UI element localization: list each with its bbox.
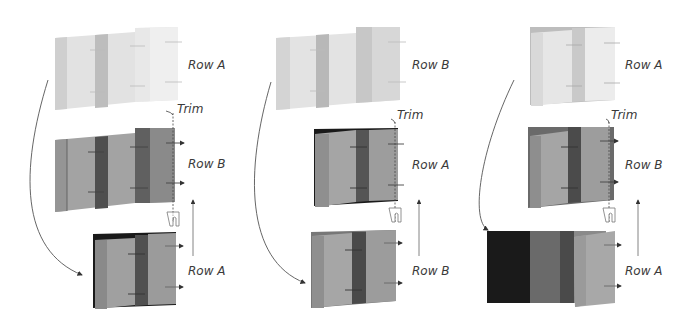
bottom-fabric-panel — [487, 231, 621, 307]
row-label-top: Row A — [625, 58, 663, 72]
trim-label: Trim — [397, 108, 423, 122]
row-label-top: Row A — [188, 58, 226, 72]
middle-fabric-panel — [528, 119, 618, 222]
row-label-middle: Row B — [625, 158, 663, 172]
top-fabric-panel — [530, 27, 620, 106]
row-label-bottom: Row A — [625, 264, 663, 278]
move-row-arrow — [479, 80, 514, 230]
move-row-arrow — [254, 82, 305, 283]
row-label-bottom: Row B — [412, 264, 450, 278]
row-label-middle: Row A — [412, 158, 450, 172]
presser-foot-icon — [389, 208, 401, 222]
top-fabric-panel — [55, 27, 182, 110]
trim-label: Trim — [611, 108, 637, 122]
column-1 — [30, 27, 193, 309]
column-2 — [254, 27, 419, 308]
seam-diagram — [0, 0, 680, 328]
middle-fabric-panel — [55, 111, 184, 222]
presser-foot-icon — [167, 212, 179, 226]
bottom-fabric-panel — [311, 230, 402, 308]
presser-foot-icon — [603, 208, 615, 222]
row-label-top: Row B — [412, 58, 450, 72]
column-3 — [479, 27, 638, 307]
bottom-fabric-panel — [93, 232, 183, 309]
row-label-middle: Row B — [188, 157, 226, 171]
trim-label: Trim — [177, 102, 203, 116]
top-fabric-panel — [276, 27, 406, 110]
row-label-bottom: Row A — [188, 264, 226, 278]
middle-fabric-panel — [314, 119, 404, 222]
